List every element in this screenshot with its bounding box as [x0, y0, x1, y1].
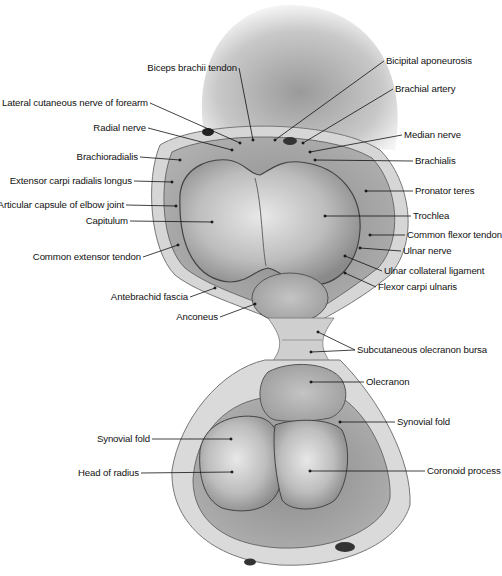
label-capitulum: Capitulum — [86, 215, 128, 226]
label-head-of-radius: Head of radius — [78, 467, 139, 478]
radial-head — [200, 416, 282, 511]
label-subcutaneous-olecranon-bursa: Subcutaneous olecranon bursa — [357, 344, 487, 355]
label-common-extensor-tendon: Common extensor tendon — [33, 251, 141, 262]
olecranon-lower — [260, 364, 346, 421]
label-radial-nerve: Radial nerve — [93, 122, 146, 133]
capitulum-shape — [180, 160, 360, 285]
label-ulnar-collateral-ligament: Ulnar collateral ligament — [384, 265, 484, 276]
label-anconeus: Anconeus — [176, 311, 218, 322]
label-median-nerve: Median nerve — [404, 129, 461, 140]
label-brachioradialis: Brachioradialis — [77, 151, 138, 162]
label-trochlea: Trochlea — [413, 210, 449, 221]
label-synovial-fold-left: Synovial fold — [97, 433, 150, 444]
label-brachial-artery: Brachial artery — [395, 83, 455, 94]
label-extensor-carpi-radialis-longus: Extensor carpi radialis longus — [10, 175, 132, 186]
label-flexor-carpi-ulnaris: Flexor carpi ulnaris — [378, 281, 457, 292]
label-antebrachid-fascia: Antebrachid fascia — [111, 291, 188, 302]
label-common-flexor-tendon: Common flexor tendon — [407, 229, 502, 240]
label-olecranon: Olecranon — [366, 376, 409, 387]
label-brachialis: Brachialis — [415, 155, 456, 166]
elbow-anatomy-figure: Biceps brachii tendonLateral cutaneous n… — [0, 0, 502, 576]
label-pronator-teres: Pronator teres — [415, 185, 474, 196]
label-lateral-cutaneous-nerve: Lateral cutaneous nerve of forearm — [2, 97, 148, 108]
label-bicipital-aponeurosis: Bicipital aponeurosis — [386, 55, 472, 66]
label-synovial-fold-right: Synovial fold — [397, 416, 450, 427]
olecranon-upper-cut — [252, 273, 328, 323]
label-articular-capsule: Articular capsule of elbow joint — [0, 199, 124, 210]
label-ulnar-nerve: Ulnar nerve — [403, 245, 452, 256]
label-coronoid-process: Coronoid process — [427, 465, 501, 476]
label-biceps-brachii-tendon: Biceps brachii tendon — [147, 62, 237, 73]
coronoid-process-shape — [274, 420, 348, 509]
